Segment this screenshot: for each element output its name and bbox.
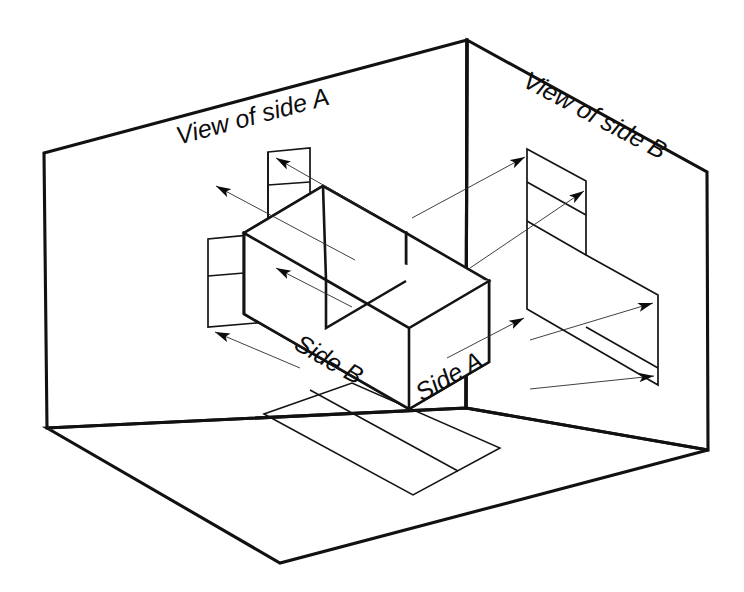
right-view-outline (527, 149, 658, 385)
right-projected-view (527, 149, 658, 385)
technical-drawing-figure: View of side A View of side B Side B Sid… (0, 0, 744, 592)
ray-right-1 (412, 157, 525, 218)
label-view-of-side-b: View of side B (519, 65, 672, 164)
plan-step-line (310, 390, 458, 471)
label-view-of-side-a: View of side A (173, 82, 332, 150)
ray-right-5 (530, 376, 654, 389)
right-view-step-line (527, 221, 586, 255)
isometric-projection-svg: View of side A View of side B Side B Sid… (0, 0, 744, 592)
right-view-hline-lower (586, 327, 658, 368)
left-view-hline-upper (268, 182, 310, 185)
